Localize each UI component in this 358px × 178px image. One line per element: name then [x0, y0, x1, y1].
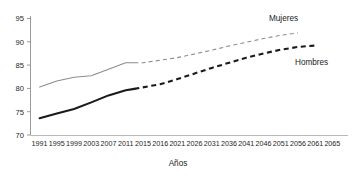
x-axis-tick-label: 2011	[118, 139, 133, 148]
x-axis-tick-label: 2065	[324, 139, 340, 148]
x-axis-tick-label: 2041	[238, 139, 254, 148]
x-axis-tick-label: 2026	[187, 139, 203, 148]
series-mujeres-observed-line	[40, 63, 135, 87]
x-axis-tick-label: 2015	[135, 139, 151, 148]
series-label-hombres: Hombres	[295, 58, 328, 67]
x-axis-tick-label: 1995	[49, 139, 65, 148]
y-axis-tick-labels: 707580859095	[16, 14, 24, 140]
x-axis-tick-label: 2046	[256, 139, 272, 148]
x-axis-tick-label: 2056	[290, 139, 306, 148]
life-expectancy-chart: 707580859095 199119951999200320072011201…	[0, 0, 358, 178]
series-mujeres-projected-line	[134, 33, 298, 63]
x-axis-tick-label: 2003	[83, 139, 99, 148]
y-axis-tick-label: 80	[16, 84, 24, 93]
y-axis-ticks	[27, 19, 31, 136]
series-hombres-projected-line	[134, 46, 315, 89]
x-axis-tick-label: 2016	[152, 139, 168, 148]
x-axis-tick-label: 2051	[273, 139, 289, 148]
y-axis-tick-label: 85	[16, 61, 24, 70]
x-axis-title: Años	[169, 159, 188, 168]
x-axis-tick-label: 2061	[307, 139, 323, 148]
chart-plot-area: 707580859095 199119951999200320072011201…	[0, 0, 358, 178]
series-label-mujeres: Mujeres	[269, 14, 298, 23]
x-axis-tick-label: 2007	[101, 139, 117, 148]
x-axis-tick-label: 2031	[204, 139, 220, 148]
x-axis-tick-label: 2021	[169, 139, 185, 148]
y-axis-tick-label: 70	[16, 131, 24, 140]
y-axis-tick-label: 75	[16, 108, 24, 117]
y-axis-tick-label: 90	[16, 38, 24, 47]
y-axis-tick-label: 95	[16, 14, 24, 23]
series-hombres-observed-line	[40, 89, 135, 118]
x-axis-tick-labels: 1991199519992003200720112015201620212026…	[32, 139, 341, 148]
x-axis-tick-label: 1991	[32, 139, 48, 148]
x-axis-tick-label: 1999	[66, 139, 82, 148]
x-axis-tick-label: 2036	[221, 139, 237, 148]
